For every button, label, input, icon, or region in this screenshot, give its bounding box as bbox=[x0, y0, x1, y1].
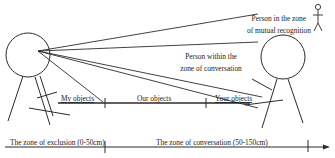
right-person-leg-left bbox=[262, 79, 277, 128]
ray-to-recognition-bottom bbox=[38, 42, 258, 51]
label-mutual-recognition-2: of mutual recognition bbox=[247, 26, 311, 35]
label-your-objects: Your objects bbox=[215, 94, 252, 103]
right-person-figure bbox=[245, 35, 305, 128]
label-zone-exclusion: The zone of exclusion (0-50cm) bbox=[10, 138, 105, 147]
right-person-head bbox=[261, 35, 305, 79]
ray-to-recognition-top bbox=[38, 14, 258, 51]
left-person-arm-lower bbox=[29, 108, 70, 115]
distant-person-figure bbox=[313, 4, 323, 31]
label-conversation-person-1: Person within the bbox=[185, 52, 237, 61]
label-our-objects: Our objects bbox=[137, 94, 171, 103]
label-my-objects: My objects bbox=[61, 94, 94, 103]
right-person-arm-upper bbox=[252, 79, 272, 90]
right-person-leg-right bbox=[288, 79, 303, 123]
label-mutual-recognition-1: Person in the zone bbox=[252, 14, 307, 23]
distant-person-head bbox=[315, 4, 320, 9]
proxemics-diagram: Person in the zone of mutual recognition… bbox=[0, 0, 335, 158]
label-conversation-person-2: zone of conversation bbox=[180, 64, 242, 73]
left-person-leg-left bbox=[8, 76, 23, 121]
label-zone-conversation: The zone of conversation (50-150cm) bbox=[156, 138, 268, 147]
distant-person-leg-left bbox=[314, 23, 318, 31]
distant-person-leg-right bbox=[318, 23, 322, 31]
axis-arrow-icon bbox=[323, 145, 330, 150]
